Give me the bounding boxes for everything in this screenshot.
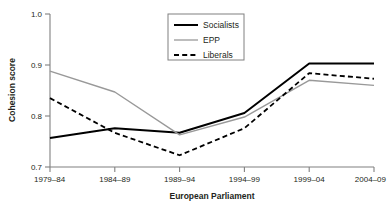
x-tick-label: 1979–84 xyxy=(34,175,66,184)
y-axis-title: Cohesion score xyxy=(7,58,17,122)
cohesion-score-line-chart: 0.70.80.91.0 1979–841984–891989–941994–9… xyxy=(0,0,392,215)
x-tick-label: 1994–99 xyxy=(229,175,261,184)
x-axis-title: European Parliament xyxy=(169,191,254,201)
series-line-liberals xyxy=(50,73,374,155)
y-tick-label: 0.7 xyxy=(31,163,43,172)
x-axis-ticks: 1979–841984–891989–941994–991999–042004–… xyxy=(34,167,387,184)
series-line-epp xyxy=(50,71,374,135)
legend-label-epp: EPP xyxy=(203,35,220,45)
x-tick-label: 1999–04 xyxy=(294,175,326,184)
x-tick-label: 1984–89 xyxy=(99,175,131,184)
x-tick-label: 1989–94 xyxy=(164,175,196,184)
legend-label-socialists: Socialists xyxy=(203,20,239,30)
y-tick-label: 0.8 xyxy=(31,112,43,121)
y-tick-label: 1.0 xyxy=(31,10,43,19)
y-tick-label: 0.9 xyxy=(31,61,43,70)
data-series-group xyxy=(50,63,374,155)
chart-canvas: 0.70.80.91.0 1979–841984–891989–941994–9… xyxy=(0,0,392,215)
chart-legend: SocialistsEPPLiberals xyxy=(168,14,244,60)
x-tick-label: 2004–09 xyxy=(355,175,387,184)
legend-label-liberals: Liberals xyxy=(203,50,233,60)
y-axis-ticks: 0.70.80.91.0 xyxy=(31,10,50,172)
